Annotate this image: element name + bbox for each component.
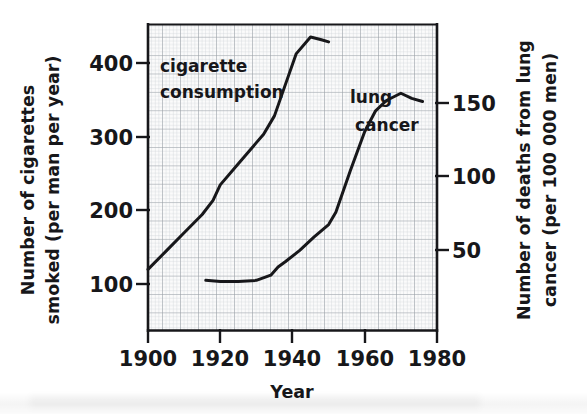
right-axis-title-line1: Number of deaths from lung <box>514 40 534 320</box>
left-ticklabel-100: 100 <box>89 273 133 297</box>
left-axis-ticklabels: 400 300 200 100 <box>89 52 133 297</box>
x-ticklabel-1900: 1900 <box>119 347 177 371</box>
left-ticklabel-300: 300 <box>89 126 133 150</box>
left-ticklabel-200: 200 <box>89 199 133 223</box>
x-axis-title: Year <box>269 382 314 402</box>
x-ticklabel-1960: 1960 <box>336 347 394 371</box>
x-ticklabel-1980: 1980 <box>408 347 466 371</box>
line-chart-canvas: 400 300 200 100 150 100 50 1900 1920 1 <box>0 0 587 414</box>
right-axis-title-line2: cancer (per 100 000 men) <box>540 53 560 308</box>
right-axis-title: Number of deaths from lung cancer (per 1… <box>514 40 560 320</box>
left-axis-title-line2: smoked (per man per year) <box>43 56 63 325</box>
right-axis-ticklabels: 150 100 50 <box>452 92 496 263</box>
right-ticklabel-150: 150 <box>452 92 496 116</box>
x-axis-ticklabels: 1900 1920 1940 1960 1980 <box>119 347 466 371</box>
right-ticklabel-100: 100 <box>452 165 496 189</box>
annotation-lung-line2: cancer <box>355 115 419 135</box>
annotation-cigarette-line2: consumption <box>160 82 284 102</box>
x-ticklabel-1920: 1920 <box>191 347 249 371</box>
x-ticklabel-1940: 1940 <box>263 347 321 371</box>
left-axis-title: Number of cigarettes smoked (per man per… <box>18 56 63 325</box>
left-axis-title-line1: Number of cigarettes <box>18 85 38 295</box>
right-ticklabel-50: 50 <box>452 239 481 263</box>
left-ticklabel-400: 400 <box>89 52 133 76</box>
chart-figure: 400 300 200 100 150 100 50 1900 1920 1 <box>0 0 587 414</box>
annotation-lung-line1: lung <box>350 87 392 107</box>
annotation-cigarette-line1: cigarette <box>160 56 247 76</box>
